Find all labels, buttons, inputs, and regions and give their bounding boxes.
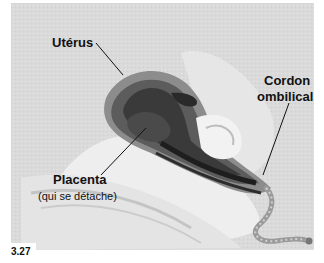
uterus-label: Utérus <box>52 36 93 49</box>
cord-label-line2: ombilical <box>257 90 313 103</box>
placenta-label: Placenta <box>53 173 106 186</box>
illustration-panel: Utérus Cordon ombilical Placenta (qui se… <box>11 3 314 250</box>
figure-number: 3.27 <box>11 246 30 257</box>
cord-label-line1: Cordon <box>264 74 310 87</box>
placenta-note: (qui se détache) <box>38 190 117 203</box>
